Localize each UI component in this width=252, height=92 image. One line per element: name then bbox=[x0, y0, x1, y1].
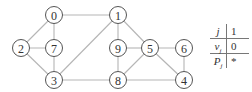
table-row-j: j 1 bbox=[210, 24, 249, 38]
svg-text:0: 0 bbox=[51, 9, 57, 23]
svg-text:9: 9 bbox=[115, 42, 121, 56]
node-7: 7 bbox=[46, 40, 63, 57]
svg-text:6: 6 bbox=[181, 42, 187, 56]
svg-text:5: 5 bbox=[147, 42, 153, 56]
svg-text:3: 3 bbox=[51, 74, 57, 88]
node-8: 8 bbox=[110, 72, 127, 89]
table-row-vj: vj 0 bbox=[210, 38, 249, 53]
svg-text:1: 1 bbox=[115, 9, 121, 23]
table-row-pj: Pj * bbox=[210, 53, 249, 68]
svg-text:2: 2 bbox=[18, 42, 24, 56]
row-header-j: j bbox=[210, 24, 227, 38]
row-header-pj: Pj bbox=[210, 54, 227, 68]
node-2: 2 bbox=[13, 40, 30, 57]
node-6: 6 bbox=[176, 40, 193, 57]
edge-3-1 bbox=[54, 15, 118, 80]
node-3: 3 bbox=[46, 72, 63, 89]
svg-text:4: 4 bbox=[181, 74, 187, 88]
svg-text:8: 8 bbox=[115, 74, 121, 88]
row-value-pj: * bbox=[227, 54, 249, 68]
label-table: j 1 vj 0 Pj * bbox=[210, 24, 249, 68]
row-value-vj: 0 bbox=[227, 39, 249, 53]
row-header-vj: vj bbox=[210, 39, 227, 53]
node-5: 5 bbox=[142, 40, 159, 57]
node-4: 4 bbox=[176, 72, 193, 89]
node-1: 1 bbox=[110, 7, 127, 24]
svg-text:7: 7 bbox=[51, 42, 57, 56]
node-9: 9 bbox=[110, 40, 127, 57]
row-value-j: 1 bbox=[227, 24, 249, 38]
node-0: 0 bbox=[46, 7, 63, 24]
